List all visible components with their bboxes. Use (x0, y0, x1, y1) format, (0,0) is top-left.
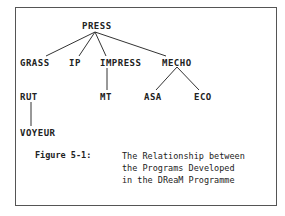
node-voyeur: VOYEUR (20, 128, 56, 138)
node-press: PRESS (82, 21, 112, 31)
caption-line: The Relationship between (122, 150, 245, 162)
node-grass: GRASS (20, 58, 50, 68)
figure-caption: The Relationship between the Programs De… (122, 150, 245, 186)
node-asa: ASA (144, 92, 162, 102)
caption-line: the Programs Developed (122, 162, 245, 174)
node-rut: RUT (20, 92, 38, 102)
edge-press-mecho (95, 32, 166, 56)
edge-mecho-eco (177, 67, 199, 90)
node-impress: IMPRESS (100, 58, 141, 68)
node-ip: IP (69, 58, 81, 68)
caption-line: in the DReaM Programme (122, 174, 245, 186)
edge-press-grass (46, 32, 95, 56)
figure-label: Figure 5-1: (35, 150, 91, 160)
node-mecho: MECHO (162, 58, 192, 68)
node-mt: MT (100, 92, 112, 102)
edge-mecho-asa (156, 67, 177, 90)
node-eco: ECO (194, 92, 212, 102)
